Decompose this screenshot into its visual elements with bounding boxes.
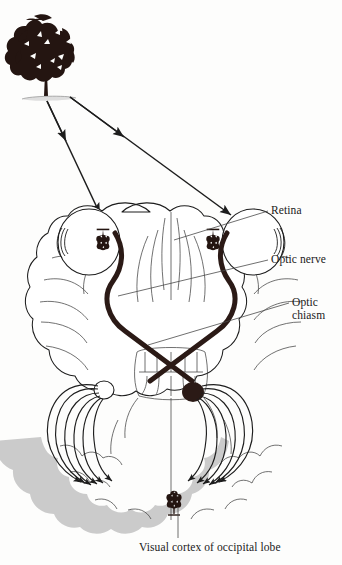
- figure-canvas: Retina Optic nerve Optic chiasm Visual c…: [0, 0, 342, 565]
- label-optic-chiasm: Optic chiasm: [292, 296, 325, 322]
- label-optic-nerve: Optic nerve: [271, 253, 326, 266]
- brain-silhouette: [25, 203, 246, 396]
- left-eye: [57, 209, 120, 275]
- label-retina: Retina: [271, 204, 302, 217]
- visual-pathway-diagram: [0, 0, 342, 565]
- brain-outline: [25, 203, 246, 396]
- label-optic-chiasm-line1: Optic: [292, 296, 325, 309]
- label-visual-cortex: Visual cortex of occipital lobe: [139, 541, 281, 554]
- label-optic-chiasm-line2: chiasm: [292, 309, 325, 322]
